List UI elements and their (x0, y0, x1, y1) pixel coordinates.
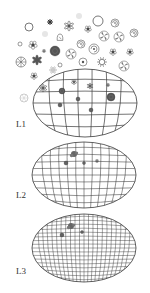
mesh-marks-l2 (64, 151, 99, 165)
scatter-pinwheel-icon (99, 31, 109, 41)
scatter-small-bug-icon (127, 49, 134, 55)
mark-l1-dark-disc-icon (58, 103, 62, 107)
scatter-faint-flower-icon (49, 66, 56, 73)
scatter-small-bug-icon (85, 26, 92, 32)
mesh-level-l1 (31, 67, 139, 139)
mark-l1-dark-disc-icon (89, 108, 93, 112)
mesh-marks-l3 (60, 223, 84, 237)
mark-l1-dark-disc-icon (76, 97, 80, 101)
scatter-bell-icon (57, 34, 63, 40)
scatter-small-ring-icon (18, 42, 22, 46)
scatter-spiral-icon (89, 44, 99, 54)
scatter-star-flower-icon (64, 21, 74, 31)
mark-l1-small-bug-icon (72, 80, 77, 85)
scatter-faint-icon (42, 31, 48, 37)
scatter-dark-disc-icon (50, 46, 60, 56)
mark-l1-dark-disc-icon (59, 88, 65, 94)
mark-l2-dark-disc-icon (83, 162, 86, 165)
scatter-spiral-icon (77, 40, 85, 48)
mesh-grid-l3 (30, 212, 138, 284)
scatter-ring-dot-icon (79, 58, 87, 66)
scatter-ring-icon (93, 16, 103, 26)
scatter-faint-ring-icon (20, 94, 28, 102)
scatter-ring-icon (25, 23, 33, 31)
scattered-pattern-icons (16, 13, 138, 102)
scatter-star-icon (32, 55, 42, 65)
mark-l1-dark-disc-icon (107, 93, 115, 101)
scatter-spiral-icon (111, 19, 119, 27)
scatter-sun-icon (97, 57, 107, 67)
scatter-pinwheel-icon (119, 61, 129, 71)
mesh-grid-l2 (30, 140, 138, 210)
scatter-bug-icon (29, 41, 37, 49)
level-label-l1: L1 (16, 120, 26, 129)
mark-l2-dark-cluster-icon (70, 151, 78, 157)
scatter-spoke-ring-icon (16, 57, 26, 67)
mesh-level-l3 (30, 212, 138, 284)
mark-l3-dark-disc-icon (81, 231, 84, 234)
mesh-grid-l1 (31, 67, 139, 139)
mesh-level-l2 (30, 140, 138, 210)
scatter-bug-icon (110, 49, 117, 55)
scatter-faint-icon (76, 13, 82, 19)
scatter-small-ring-icon (58, 63, 62, 67)
scatter-dark-flower-icon (47, 19, 53, 25)
hierarchical-mesh-diagram (0, 0, 150, 293)
scatter-bug-icon (31, 73, 38, 79)
scatter-pinwheel-icon (66, 49, 76, 59)
level-label-l3: L3 (16, 267, 26, 276)
scatter-spiral-icon (130, 29, 138, 37)
level-label-l2: L2 (16, 191, 26, 200)
mark-l3-dark-disc-icon (60, 233, 64, 237)
mesh-levels (30, 67, 139, 284)
mark-l2-dark-disc-icon (64, 161, 68, 165)
scatter-small-bug-icon (42, 50, 45, 53)
scatter-pinwheel-icon (114, 32, 124, 42)
